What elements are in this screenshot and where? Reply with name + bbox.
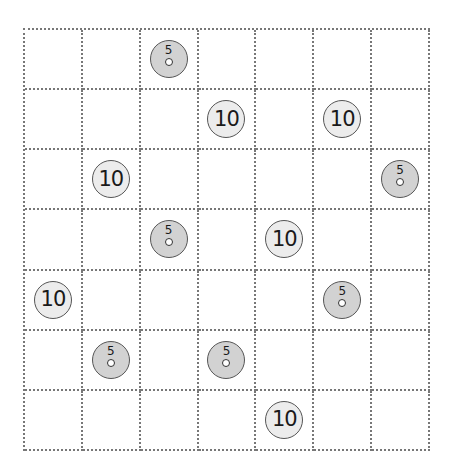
coin-10-icon[interactable]: 10 [265, 220, 303, 258]
grid-cell[interactable]: 10 [256, 391, 314, 451]
grid-cell[interactable] [199, 210, 257, 270]
grid-cell[interactable]: 5 [141, 30, 199, 90]
grid-cell[interactable]: 5 [83, 331, 141, 391]
grid-cell[interactable] [25, 210, 83, 270]
coin-10-icon[interactable]: 10 [92, 160, 130, 198]
grid-cell[interactable] [199, 30, 257, 90]
grid-cell[interactable]: 5 [141, 210, 199, 270]
coin-5-icon[interactable]: 5 [150, 220, 188, 258]
grid-cell[interactable]: 10 [25, 271, 83, 331]
grid-cell[interactable] [83, 210, 141, 270]
coin-5-icon[interactable]: 5 [323, 281, 361, 319]
grid-cell[interactable] [141, 331, 199, 391]
grid-cell[interactable] [372, 90, 430, 150]
coin-hole-icon [338, 299, 346, 307]
grid-cell[interactable] [141, 271, 199, 331]
grid-cell[interactable] [83, 30, 141, 90]
grid-cell[interactable] [199, 150, 257, 210]
grid-cell[interactable] [372, 210, 430, 270]
grid-cell[interactable] [25, 391, 83, 451]
grid-cell[interactable] [141, 90, 199, 150]
coin-hole-icon [165, 58, 173, 66]
grid-cell[interactable]: 10 [314, 90, 372, 150]
coin-grid: 510101055101055510 [23, 28, 430, 451]
coin-10-icon[interactable]: 10 [265, 401, 303, 439]
grid-cell[interactable] [372, 391, 430, 451]
grid-cell[interactable]: 5 [314, 271, 372, 331]
coin-5-icon[interactable]: 5 [150, 40, 188, 78]
grid-cell[interactable] [25, 150, 83, 210]
coin-value: 10 [214, 109, 239, 130]
grid-cell[interactable] [25, 30, 83, 90]
grid-cell[interactable] [141, 150, 199, 210]
grid-cell[interactable] [256, 30, 314, 90]
grid-cell[interactable] [83, 90, 141, 150]
grid-cell[interactable]: 10 [83, 150, 141, 210]
grid-cell[interactable] [256, 90, 314, 150]
coin-value: 5 [208, 345, 244, 357]
grid-cell[interactable] [372, 331, 430, 391]
grid-cell[interactable] [256, 331, 314, 391]
grid-cell[interactable] [314, 331, 372, 391]
coin-hole-icon [222, 359, 230, 367]
grid-cell[interactable] [314, 30, 372, 90]
grid-cell[interactable]: 10 [199, 90, 257, 150]
coin-10-icon[interactable]: 10 [34, 281, 72, 319]
coin-value: 10 [330, 109, 355, 130]
grid-cell[interactable]: 10 [256, 210, 314, 270]
grid-cell[interactable] [25, 90, 83, 150]
coin-value: 10 [98, 169, 123, 190]
grid-cell[interactable] [372, 271, 430, 331]
coin-5-icon[interactable]: 5 [207, 341, 245, 379]
coin-value: 5 [93, 345, 129, 357]
grid-cell[interactable] [25, 331, 83, 391]
coin-value: 10 [272, 229, 297, 250]
grid-cell[interactable] [256, 271, 314, 331]
coin-value: 5 [151, 224, 187, 236]
coin-5-icon[interactable]: 5 [381, 160, 419, 198]
coin-value: 10 [272, 409, 297, 430]
grid-cell[interactable] [314, 391, 372, 451]
grid-cell[interactable] [314, 210, 372, 270]
coin-5-icon[interactable]: 5 [92, 341, 130, 379]
coin-10-icon[interactable]: 10 [207, 100, 245, 138]
coin-value: 5 [324, 285, 360, 297]
grid-cell[interactable] [372, 30, 430, 90]
grid-cell[interactable]: 5 [199, 331, 257, 391]
coin-value: 10 [41, 289, 66, 310]
coin-hole-icon [165, 238, 173, 246]
grid-cell[interactable] [199, 391, 257, 451]
coin-hole-icon [107, 359, 115, 367]
coin-10-icon[interactable]: 10 [323, 100, 361, 138]
grid-cell[interactable] [141, 391, 199, 451]
grid-cell[interactable] [256, 150, 314, 210]
coin-value: 5 [151, 44, 187, 56]
coin-hole-icon [396, 178, 404, 186]
grid-cell[interactable] [83, 271, 141, 331]
grid-cell[interactable] [83, 391, 141, 451]
grid-cell[interactable] [199, 271, 257, 331]
coin-value: 5 [382, 164, 418, 176]
grid-cell[interactable] [314, 150, 372, 210]
grid-cell[interactable]: 5 [372, 150, 430, 210]
